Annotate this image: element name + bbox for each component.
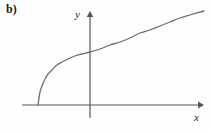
plot-svg (0, 0, 211, 132)
y-axis-label: y (75, 9, 80, 20)
figure-panel: b) y x (0, 0, 211, 132)
curve-path (38, 11, 204, 105)
x-axis-arrowhead (198, 102, 204, 109)
x-axis-label: x (194, 112, 199, 123)
y-axis-arrowhead (87, 11, 94, 17)
